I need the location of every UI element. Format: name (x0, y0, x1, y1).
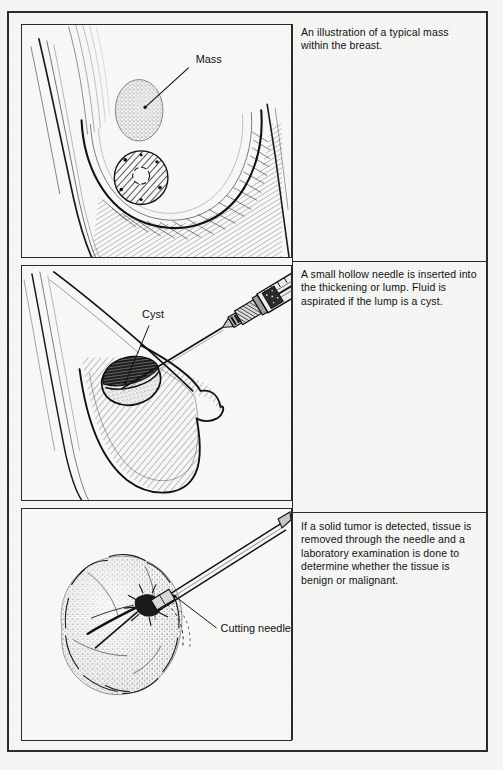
cutting-needle-biopsy-of-tumor-illustration: Cutting needle (21, 508, 292, 741)
caption-divider-2 (292, 512, 488, 513)
caption-panel-1: An illustration of a typical mass within… (301, 26, 479, 53)
cutting-needle-leader-dot (173, 595, 176, 598)
figure-page: Mass (0, 0, 503, 770)
caption-panel-3: If a solid tumor is detected, tissue is … (301, 520, 479, 587)
panel-1-drawing: Mass (22, 25, 291, 257)
torso-contour-lines (24, 272, 89, 500)
upper-chest-lines (69, 25, 110, 134)
nipple-shape (133, 167, 150, 184)
needle-aspiration-of-cyst-illustration: Cyst (21, 265, 292, 501)
cutting-needle (151, 512, 291, 611)
panel-2-drawing: Cyst (22, 266, 291, 500)
mass-leader-dot (143, 106, 146, 109)
breast-with-mass-illustration: Mass (21, 24, 292, 258)
torso-contour-lines (31, 39, 99, 257)
caption-divider-1 (292, 261, 488, 262)
column-divider (292, 24, 293, 740)
cutting-needle-label: Cutting needle (221, 622, 291, 634)
mass-label: Mass (196, 53, 223, 65)
cyst-label: Cyst (142, 308, 164, 320)
panel-3-drawing: Cutting needle (22, 509, 291, 740)
cyst-leader-dot (124, 381, 127, 384)
syringe-assembly (215, 266, 291, 339)
caption-panel-2: A small hollow needle is inserted into t… (301, 268, 479, 308)
